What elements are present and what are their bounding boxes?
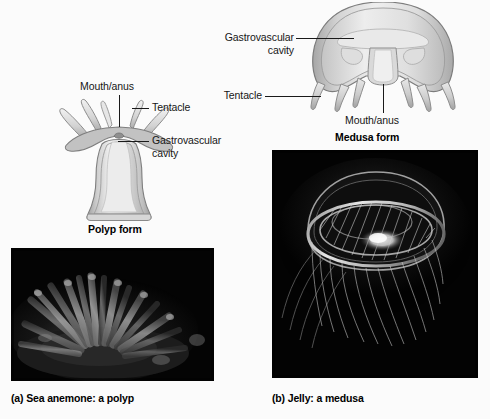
medusa-mouth-lumen xyxy=(373,50,393,82)
jelly-photo xyxy=(272,150,478,378)
medusa-gvc-leader xyxy=(296,38,354,39)
polyp-tentacle-leader xyxy=(132,108,149,109)
polyp-gastrovascular-cavity-label: Gastrovascular cavity xyxy=(152,134,221,159)
medusa-tentacle-leader xyxy=(265,96,321,97)
medusa-tentacle-label: Tentacle xyxy=(200,89,262,102)
polyp-gvc-leader xyxy=(118,141,149,142)
jelly-caption: (b) Jelly: a medusa xyxy=(272,392,364,404)
polyp-mouth-anus-label: Mouth/anus xyxy=(80,80,134,93)
medusa-form-label: Medusa form xyxy=(335,131,399,143)
sea-anemone-photo xyxy=(11,248,214,381)
polyp-form-label: Polyp form xyxy=(88,223,142,235)
medusa-mouth-anus-label: Mouth/anus xyxy=(345,114,399,127)
polyp-tentacle-label: Tentacle xyxy=(152,101,190,114)
cnidarian-body-forms-figure: Mouth/anus Tentacle Gastrovascular cavit… xyxy=(0,0,490,419)
sea-anemone-caption: (a) Sea anemone: a polyp xyxy=(11,392,134,404)
medusa-gastrovascular-cavity-label: Gastrovascular cavity xyxy=(198,31,294,56)
medusa-mouth-leader xyxy=(383,84,384,113)
polyp-mouth-leader xyxy=(119,95,120,127)
